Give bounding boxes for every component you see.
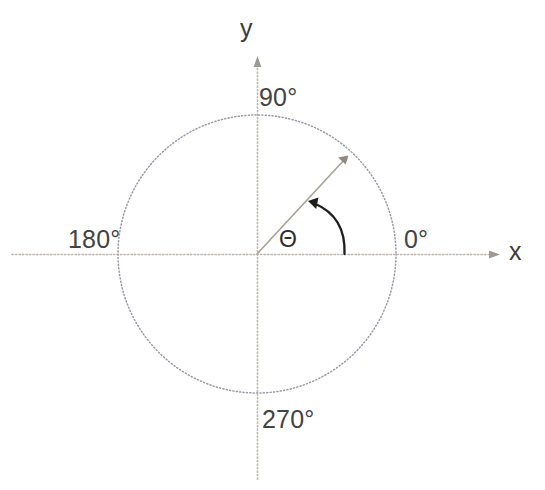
y-axis-arrowhead-icon — [254, 56, 262, 67]
diagram-canvas: y x 90° 180° 0° 270° Θ — [0, 0, 545, 490]
radius-vector-line — [257, 160, 345, 255]
rotation-arrowhead-icon — [308, 198, 318, 209]
theta-symbol-label: Θ — [279, 228, 297, 251]
angle-label-180: 180° — [68, 227, 121, 252]
angle-label-0: 0° — [404, 227, 428, 252]
y-axis-label: y — [240, 16, 253, 41]
rotation-arc-arrow — [315, 204, 345, 255]
angle-label-90: 90° — [259, 85, 297, 110]
radius-vector-arrowhead-icon — [338, 156, 348, 165]
x-axis-arrowhead-icon — [489, 251, 500, 259]
x-axis-label: x — [509, 239, 522, 264]
angle-label-270: 270° — [262, 407, 315, 432]
